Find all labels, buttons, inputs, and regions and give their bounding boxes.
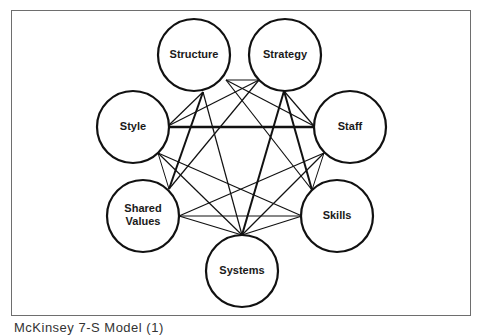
node-label: Skills xyxy=(323,209,352,221)
edge-structure-systems xyxy=(203,92,242,235)
node-label: Shared xyxy=(124,202,161,214)
edge-style-skills xyxy=(158,153,302,216)
edge-strategy-skills xyxy=(284,91,312,190)
connection-lines xyxy=(158,80,324,235)
edge-structure-skills xyxy=(226,80,312,190)
node-structure: Structure xyxy=(158,19,230,91)
node-staff: Staff xyxy=(314,91,386,163)
node-label: Staff xyxy=(338,120,363,132)
node-label: Strategy xyxy=(263,48,308,60)
node-skills: Skills xyxy=(301,180,373,252)
node-systems: Systems xyxy=(206,235,278,307)
figure-caption: McKinsey 7-S Model (1) xyxy=(14,320,164,335)
node-label: Values xyxy=(126,215,161,227)
diagram-nodes: StructureStrategyStyleStaffSharedValuesS… xyxy=(97,19,386,307)
node-label: Systems xyxy=(219,264,264,276)
node-strategy: Strategy xyxy=(249,19,321,91)
node-shared-values: SharedValues xyxy=(107,180,179,252)
edge-strategy-shared-values xyxy=(169,80,259,189)
node-label: Structure xyxy=(170,48,219,60)
edge-structure-shared-values xyxy=(169,92,203,189)
node-style: Style xyxy=(97,91,169,163)
node-label: Style xyxy=(120,120,146,132)
